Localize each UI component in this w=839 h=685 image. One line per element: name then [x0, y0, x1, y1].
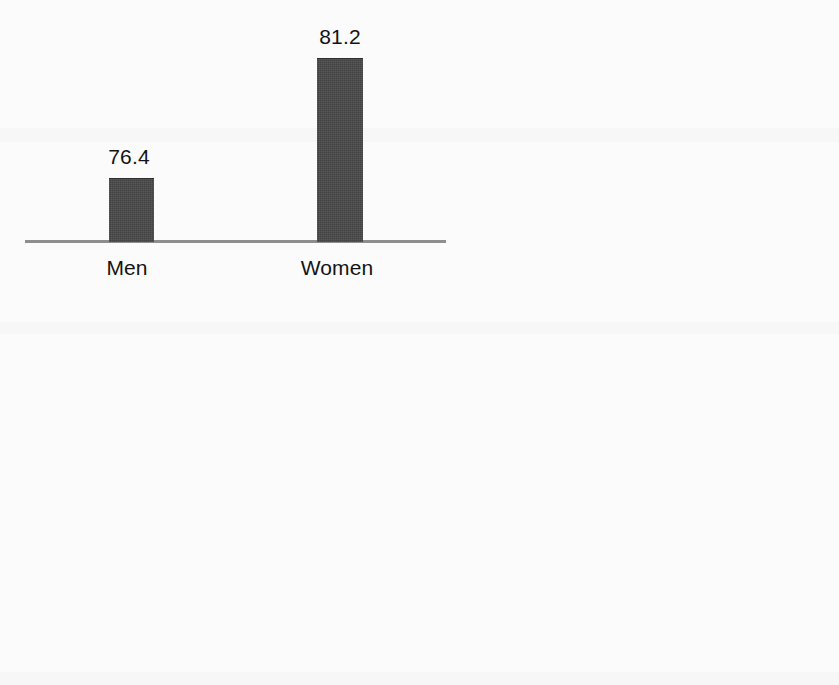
bar-value-label: 76.4 [89, 145, 169, 168]
bar-men[interactable] [109, 178, 154, 242]
figure-two-bar-charts: 76.4 Men 81.2 Women 76.7 White Men 81.4 … [0, 0, 839, 685]
category-label-women: Women [287, 256, 387, 280]
bar-women[interactable] [317, 58, 363, 242]
bar-value-label: 81.2 [300, 25, 380, 48]
chart-by-race-and-sex: 76.7 White Men 81.4 White Women 72.3 Bla… [0, 360, 839, 685]
category-label-men: Men [87, 256, 167, 280]
chart-by-sex: 76.4 Men 81.2 Women [0, 0, 839, 300]
x-axis-line [25, 240, 446, 243]
scan-artifact-band [0, 322, 839, 334]
